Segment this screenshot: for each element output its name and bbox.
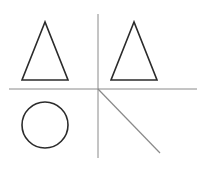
triangle-top-right	[111, 22, 157, 80]
quadrant-diagram	[0, 0, 206, 173]
triangle-top-left	[22, 22, 68, 80]
circle-bottom-left	[22, 102, 68, 148]
diagonal-line-bottom-right	[98, 89, 160, 153]
